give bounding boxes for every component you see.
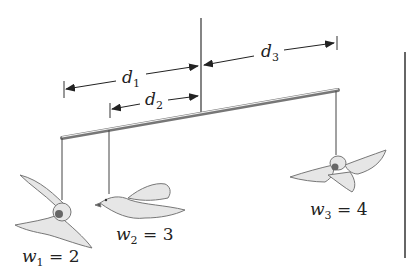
bird-w1-icon [15,175,92,248]
bird-w3-icon [290,150,386,192]
label-w1: w1 = 2 [22,248,79,268]
label-w3: w3 = 4 [310,201,367,221]
balance-rod [62,89,338,138]
label-d3: d3 [261,43,279,63]
label-d1: d1 [122,69,140,89]
label-d2: d2 [145,91,163,111]
label-w2: w2 = 3 [116,226,173,246]
